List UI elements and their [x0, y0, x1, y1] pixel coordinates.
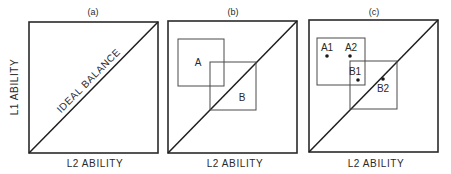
- point-b1: [356, 78, 360, 82]
- panel-a: (a) IDEAL BALANCE L2 ABILITY: [29, 7, 158, 169]
- x-axis-label-c: L2 ABILITY: [348, 158, 405, 169]
- panel-label-b: (b): [228, 7, 239, 17]
- ideal-balance-line: [29, 22, 158, 153]
- point-a2-label: A2: [345, 42, 358, 53]
- box-b-label: B: [239, 92, 246, 103]
- point-b1-label: B1: [349, 66, 362, 77]
- point-b2-label: B2: [377, 83, 390, 94]
- point-a1: [325, 54, 329, 58]
- panel-label-c: (c): [369, 7, 380, 17]
- balance-diagram: L1 ABILITY (a) IDEAL BALANCE L2 ABILITY …: [0, 0, 451, 174]
- diagonal-label: IDEAL BALANCE: [54, 46, 122, 115]
- panel-b: (b) A B L2 ABILITY: [168, 7, 297, 169]
- x-axis-label-a: L2 ABILITY: [67, 158, 124, 169]
- box-a-label: A: [195, 57, 202, 68]
- ideal-balance-line: [168, 21, 297, 153]
- x-axis-label-b: L2 ABILITY: [207, 158, 264, 169]
- ideal-balance-line: [309, 20, 438, 152]
- panel-label-a: (a): [88, 7, 99, 17]
- panel-c: (c) A1 A2 B1 B2 L2 ABILITY: [309, 7, 438, 169]
- point-b2: [381, 77, 385, 81]
- point-a2: [348, 54, 352, 58]
- point-a1-label: A1: [321, 42, 334, 53]
- y-axis-label: L1 ABILITY: [9, 59, 20, 116]
